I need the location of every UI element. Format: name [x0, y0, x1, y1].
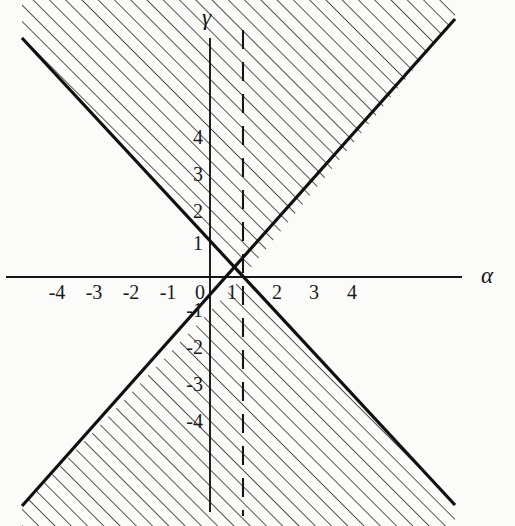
- x-tick-label: 3: [309, 282, 319, 302]
- x-tick-label: -4: [49, 282, 66, 302]
- y-tick-label: 1: [193, 233, 203, 253]
- y-tick-label: -3: [186, 374, 203, 394]
- y-tick-label: -4: [186, 411, 203, 431]
- y-tick-label: 3: [193, 164, 203, 184]
- y-axis-label-gamma: γ: [202, 6, 211, 29]
- x-tick-label: 4: [347, 282, 357, 302]
- x-axis-label-alpha: α: [481, 264, 493, 287]
- x-tick-label: -3: [86, 282, 103, 302]
- x-tick-label: 2: [272, 282, 282, 302]
- y-tick-label: -1: [186, 300, 203, 320]
- y-tick-label: -2: [186, 337, 203, 357]
- plot-canvas: [0, 0, 515, 526]
- x-tick-label: 1: [227, 282, 237, 302]
- math-figure: -4 -3 -2 -1 0 1 2 3 4 4 3 2 1 -1 -2 -3 -…: [0, 0, 515, 526]
- x-tick-label: -2: [123, 282, 140, 302]
- y-tick-label: 4: [193, 127, 203, 147]
- y-tick-label: 2: [193, 201, 203, 221]
- x-tick-label: -1: [160, 282, 177, 302]
